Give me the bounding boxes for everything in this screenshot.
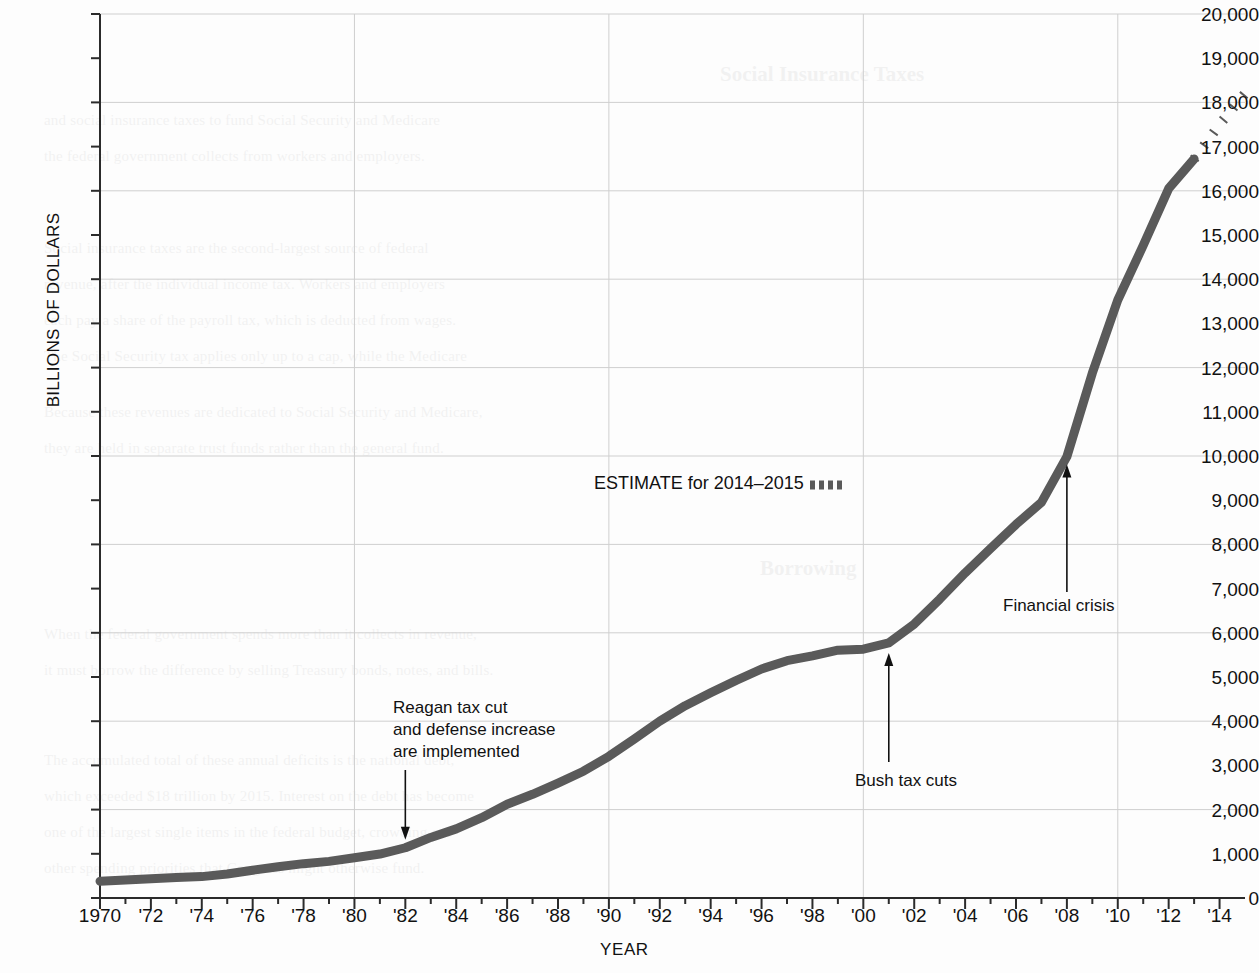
y-tick-label: 10,000 (1163, 447, 1259, 466)
annotation-line: Financial crisis (1003, 595, 1114, 617)
axis-ticks (91, 14, 1220, 909)
x-tick-label: '14 (1185, 906, 1255, 925)
annotation-line: are implemented (393, 741, 556, 763)
legend-estimate: ESTIMATE for 2014–2015 (594, 473, 846, 495)
y-tick-label: 11,000 (1163, 403, 1259, 422)
y-tick-label: 4,000 (1163, 712, 1259, 731)
y-tick-label: 1,000 (1163, 845, 1259, 864)
y-tick-label: 2,000 (1163, 801, 1259, 820)
y-tick-label: 8,000 (1163, 535, 1259, 554)
y-tick-label: 9,000 (1163, 491, 1259, 510)
legend-label: ESTIMATE for 2014–2015 (594, 473, 804, 493)
line-chart-national-debt: BILLIONS OF DOLLARS YEAR 01,0002,0003,00… (0, 0, 1259, 973)
y-tick-label: 14,000 (1163, 270, 1259, 289)
y-tick-label: 13,000 (1163, 314, 1259, 333)
y-tick-label: 17,000 (1163, 138, 1259, 157)
y-tick-label: 19,000 (1163, 49, 1259, 68)
annotation-financial-crisis: Financial crisis (1003, 595, 1114, 617)
annotation-line: Reagan tax cut (393, 697, 556, 719)
y-tick-label: 16,000 (1163, 182, 1259, 201)
y-tick-label: 3,000 (1163, 756, 1259, 775)
y-tick-label: 15,000 (1163, 226, 1259, 245)
annotation-arrows (401, 465, 1072, 840)
y-tick-label: 18,000 (1163, 93, 1259, 112)
y-tick-label: 6,000 (1163, 624, 1259, 643)
y-tick-label: 7,000 (1163, 580, 1259, 599)
legend-dotted-swatch-icon (808, 474, 846, 495)
x-axis-title: YEAR (600, 940, 649, 960)
y-axis-title: BILLIONS OF DOLLARS (44, 160, 64, 460)
annotation-reagan-tax-cut: Reagan tax cut and defense increase are … (393, 697, 556, 762)
annotation-bush-tax-cuts: Bush tax cuts (855, 770, 957, 792)
y-tick-label: 5,000 (1163, 668, 1259, 687)
annotation-line: and defense increase (393, 719, 556, 741)
annotation-line: Bush tax cuts (855, 770, 957, 792)
y-tick-label: 12,000 (1163, 359, 1259, 378)
y-tick-label: 20,000 (1163, 5, 1259, 24)
gridlines (100, 14, 1245, 898)
